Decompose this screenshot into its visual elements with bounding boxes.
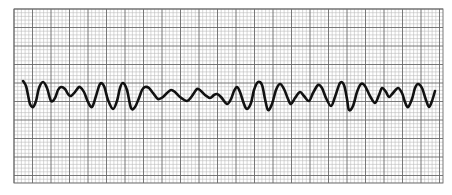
ecg-strip: [0, 0, 452, 195]
